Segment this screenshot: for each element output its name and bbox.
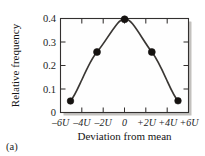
x-tick-label-plus2u: +2U xyxy=(137,117,157,128)
data-point-minus4u xyxy=(67,98,74,105)
x-tick-label-minus4u: –4U xyxy=(72,117,91,128)
x-tick-label-minus2u: –2U xyxy=(94,117,113,128)
data-point-plus4u xyxy=(175,98,182,105)
data-point-minus2u xyxy=(94,49,101,56)
y-tick-label-0-4: 0.4 xyxy=(43,13,57,24)
figure-panel: 0.4 0.3 0.2 0.1 0 –6U –4U –2U 0 +2U +4U … xyxy=(0,0,205,156)
data-point-zero xyxy=(121,16,128,23)
figure-caption: (a) xyxy=(6,141,18,153)
x-tick-label-plus4u: +4U xyxy=(158,117,178,128)
x-tick-label-minus6u: –6U xyxy=(51,117,70,128)
data-point-plus2u xyxy=(148,49,155,56)
x-axis-title: Deviation from mean xyxy=(77,130,172,142)
y-tick-label-0-2: 0.2 xyxy=(43,60,56,71)
y-axis-tick-labels: 0.4 0.3 0.2 0.1 0 xyxy=(43,13,57,118)
y-tick-label-0-1: 0.1 xyxy=(43,84,56,95)
x-tick-label-zero: 0 xyxy=(122,117,127,128)
y-tick-label-0-3: 0.3 xyxy=(43,37,56,48)
x-tick-label-plus6u: +6U xyxy=(180,117,200,128)
plot-frame xyxy=(61,19,189,113)
relative-frequency-chart: 0.4 0.3 0.2 0.1 0 –6U –4U –2U 0 +2U +4U … xyxy=(0,0,205,156)
y-axis-title: Relative frequency xyxy=(9,23,21,107)
x-axis-tick-labels: –6U –4U –2U 0 +2U +4U +6U xyxy=(51,117,199,128)
